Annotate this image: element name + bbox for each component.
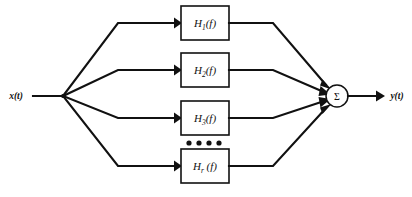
- filter-block-3[interactable]: H3(f): [181, 101, 229, 135]
- block-diagram-svg: H1(f) H2(f) H3(f) Hr (f): [0, 0, 412, 197]
- fanout-branch-1: [63, 18, 182, 97]
- sigma-symbol: Σ: [334, 91, 340, 102]
- ellipsis-dot-3: [206, 140, 211, 145]
- filter-block-1[interactable]: H1(f): [181, 6, 229, 40]
- input-signal-label: x(t): [8, 91, 23, 102]
- ellipsis-dot-1: [186, 140, 191, 145]
- fanout-branch-2: [63, 65, 182, 97]
- summing-junction-group[interactable]: Σ: [326, 85, 348, 107]
- fanin-branch-4: [229, 104, 332, 166]
- ellipsis-dots: [186, 140, 221, 145]
- ellipsis-dot-2: [196, 140, 201, 145]
- output-signal-label: y(t): [389, 91, 403, 102]
- output-wire-group: [348, 91, 385, 102]
- ellipsis-dot-4: [216, 140, 221, 145]
- input-wire-group: [33, 94, 65, 98]
- filter-block-2[interactable]: H2(f): [181, 53, 229, 87]
- fanout-branch-4: [63, 96, 182, 172]
- output-arrowhead: [376, 91, 385, 102]
- filter-block-4[interactable]: Hr (f): [181, 149, 229, 183]
- fanin-branch-3: [229, 97, 331, 118]
- block-diagram-canvas: H1(f) H2(f) H3(f) Hr (f): [0, 0, 412, 197]
- fanin-branch-1: [229, 23, 332, 90]
